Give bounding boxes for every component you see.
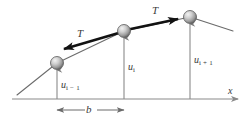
displacement-label-right-sub: i + 1 <box>199 59 213 67</box>
tension-label-left: T <box>77 28 83 39</box>
displacement-label-left: ui − 1 <box>61 80 80 92</box>
displacement-label-mid-sub: i <box>133 66 135 74</box>
x-axis-label: x <box>228 86 232 96</box>
bead-right <box>184 11 197 24</box>
displacement-label-right: ui + 1 <box>194 55 213 67</box>
beads-on-string-figure: T T ui − 1 ui ui + 1 b x <box>0 0 246 121</box>
bead-left <box>51 57 64 70</box>
tension-arrow-right <box>126 19 178 30</box>
spacing-label: b <box>86 104 92 115</box>
tension-arrow-left <box>64 32 122 49</box>
bead-mid <box>118 25 131 38</box>
displacement-label-left-sub: i − 1 <box>66 84 80 92</box>
tension-label-right: T <box>152 5 158 16</box>
displacement-label-mid: ui <box>128 62 135 74</box>
